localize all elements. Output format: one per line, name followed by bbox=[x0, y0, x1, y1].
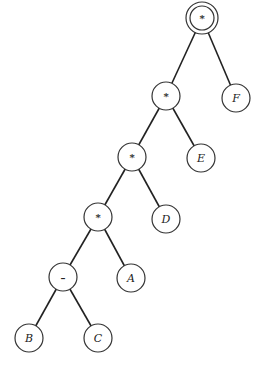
node-label: * bbox=[129, 152, 135, 163]
operand-node-e: E bbox=[187, 144, 215, 172]
node-label: E bbox=[196, 152, 205, 165]
node-label: A bbox=[126, 272, 135, 285]
operand-node-c: C bbox=[84, 324, 112, 352]
node-label: F bbox=[231, 92, 240, 105]
node-label: * bbox=[95, 212, 101, 223]
node-label: C bbox=[94, 332, 103, 345]
operator-node-minus: – bbox=[49, 263, 77, 291]
node-label: D bbox=[161, 213, 171, 226]
node-label: B bbox=[24, 332, 33, 345]
node-label: * bbox=[163, 91, 169, 102]
operand-node-f: F bbox=[222, 84, 250, 112]
operand-node-d: D bbox=[152, 205, 180, 233]
root-node: * bbox=[186, 2, 218, 34]
operator-node: * bbox=[84, 203, 112, 231]
operator-node: * bbox=[118, 143, 146, 171]
operand-node-b: B bbox=[15, 324, 43, 352]
node-label: * bbox=[199, 13, 205, 24]
operand-node-a: A bbox=[117, 264, 145, 292]
expression-tree-diagram: * * F * E * D – A B C bbox=[0, 0, 265, 367]
operator-node: * bbox=[152, 82, 180, 110]
node-label: – bbox=[61, 272, 66, 283]
